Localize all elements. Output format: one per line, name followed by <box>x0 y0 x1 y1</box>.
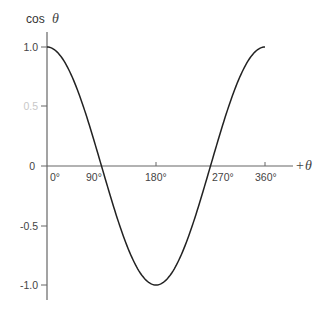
x-tick-label: 90° <box>86 171 102 183</box>
x-axis-title: + θ <box>296 158 312 173</box>
y-ticks <box>41 47 47 285</box>
cosine-chart: 1.0 0.5 0 -0.5 -1.0 0° 90° 180° 270° 360… <box>0 0 327 312</box>
x-tick-label: 360° <box>255 171 277 183</box>
x-tick-label: 180° <box>145 171 167 183</box>
y-tick-labels: 1.0 0.5 0 -0.5 -1.0 <box>20 41 38 291</box>
svg-text:θ: θ <box>305 158 312 173</box>
y-axis-title: cos θ <box>26 11 59 26</box>
y-tick-label: -0.5 <box>20 220 38 232</box>
x-tick-label: 270° <box>212 171 234 183</box>
svg-text:θ: θ <box>52 11 59 26</box>
y-tick-label: 0 <box>29 160 35 172</box>
y-tick-label: -1.0 <box>20 279 38 291</box>
y-tick-label: 0.5 <box>23 100 38 112</box>
x-tick-labels: 0° 90° 180° 270° 360° <box>50 171 277 183</box>
svg-text:+: + <box>296 158 304 173</box>
y-tick-label: 1.0 <box>23 41 38 53</box>
svg-text:cos: cos <box>26 12 45 26</box>
x-tick-label: 0° <box>50 171 60 183</box>
